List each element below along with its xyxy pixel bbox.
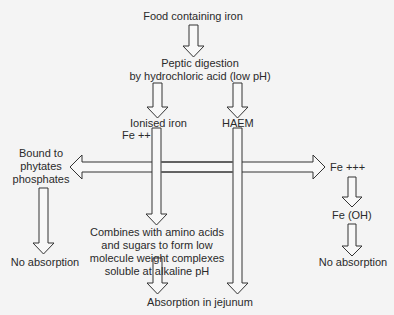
arrow-food-to-peptic — [183, 25, 204, 57]
node-feoh: Fe (OH) — [332, 209, 372, 222]
node-peptic-line1: Peptic digestion — [140, 57, 260, 70]
node-bound-line2: phytates — [6, 160, 76, 173]
arrow-haem-to-jejunum — [227, 128, 248, 294]
node-no-absorption-left: No absorption — [0, 256, 90, 269]
arrow-peptic-to-ionised — [147, 83, 168, 118]
node-combines-line2: and sugars to form low — [87, 239, 227, 252]
arrow-bound-to-noabs — [33, 188, 54, 254]
arrow-bound-fe3-horizontal — [70, 155, 325, 179]
arrow-feoh-to-noabs — [342, 224, 362, 256]
arrow-peptic-to-haem — [227, 83, 248, 118]
arrow-fe3-to-feoh — [342, 177, 362, 207]
node-bound-line3: phosphates — [6, 173, 76, 186]
node-haem: HAEM — [222, 117, 254, 130]
node-bound-line1: Bound to — [6, 147, 76, 160]
node-peptic-line2: by hydrochloric acid (low pH) — [110, 70, 290, 83]
node-combines-line4: soluble at alkaline pH — [87, 265, 227, 278]
arrow-fe2-to-combines — [146, 128, 167, 225]
node-combines-line3: molecule weight complexes — [82, 252, 232, 265]
node-food: Food containing iron — [133, 10, 253, 23]
node-combines-line1: Combines with amino acids — [87, 226, 227, 239]
node-absorption-jejunum: Absorption in jejunum — [130, 296, 270, 309]
node-fe3: Fe +++ — [330, 161, 365, 174]
node-no-absorption-right: No absorption — [308, 256, 394, 269]
node-fe2: Fe ++ — [122, 129, 151, 142]
